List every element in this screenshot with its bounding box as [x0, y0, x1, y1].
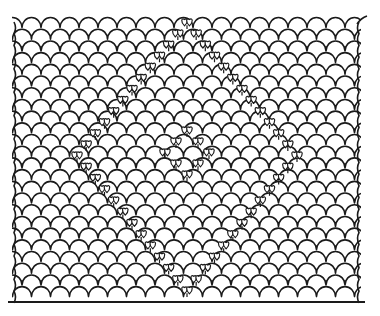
heart-icon [173, 30, 183, 40]
heart-icon [171, 160, 181, 170]
heart-icon [246, 96, 256, 106]
heart-icon [182, 19, 192, 29]
heart-icon [204, 149, 214, 159]
scale-row [13, 123, 374, 133]
heart-icon [182, 127, 192, 137]
scale-grid [3, 18, 374, 297]
scale-row [3, 41, 364, 51]
heart-icon [90, 174, 100, 184]
scale-row [13, 53, 374, 63]
right-edge [358, 22, 360, 303]
heart-icon [81, 141, 91, 151]
heart-icon [228, 74, 238, 84]
scale-row [13, 216, 374, 226]
heart-icon [191, 30, 201, 40]
scale-row [3, 88, 364, 98]
heart-icon [218, 63, 228, 73]
scale-row [3, 111, 364, 121]
heart-icon [72, 152, 82, 162]
scale-row [3, 135, 364, 145]
heart-icon [163, 41, 173, 51]
heart-icon [218, 242, 228, 252]
heart-icon [145, 242, 155, 252]
heart-icon [209, 253, 219, 263]
scale-row [13, 240, 374, 250]
scale-row [13, 287, 374, 297]
heart-icon [154, 52, 164, 62]
heart-icon [255, 108, 265, 118]
heart-icon [292, 152, 302, 162]
scale-row [13, 76, 374, 86]
heart-icon [193, 160, 203, 170]
scale-row [3, 64, 364, 74]
scale-row [13, 99, 374, 109]
top-right-tail [357, 16, 367, 24]
heart-icon [264, 119, 274, 129]
heart-icon [90, 130, 100, 140]
scale-row [3, 252, 364, 262]
scale-row [3, 228, 364, 238]
heart-icon [81, 163, 91, 173]
scale-row [3, 158, 364, 168]
scale-row [13, 170, 374, 180]
heart-icon [154, 253, 164, 263]
lace-pattern-canvas [0, 0, 380, 316]
scale-row [3, 181, 364, 191]
scale-row [13, 146, 374, 156]
scale-row [3, 205, 364, 215]
pattern-edges [14, 16, 367, 303]
heart-icon [237, 85, 247, 95]
scale-row [13, 263, 374, 273]
heart-icon [200, 264, 210, 274]
scale-row [13, 193, 374, 203]
heart-icon [200, 41, 210, 51]
heart-icon [209, 52, 219, 62]
